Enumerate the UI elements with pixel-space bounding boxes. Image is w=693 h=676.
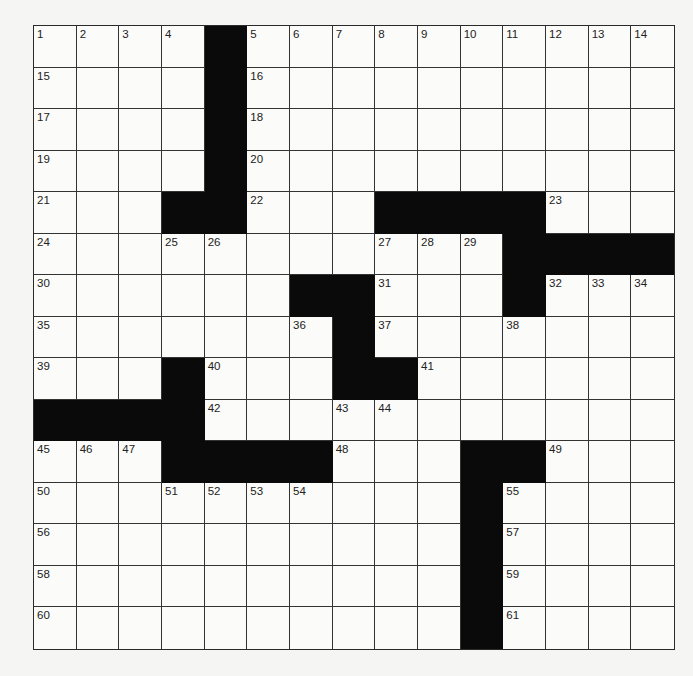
grid-cell[interactable] — [418, 317, 461, 359]
grid-cell[interactable] — [333, 483, 376, 525]
grid-cell[interactable]: 61 — [503, 607, 546, 649]
grid-cell[interactable] — [631, 524, 674, 566]
grid-cell[interactable] — [162, 109, 205, 151]
grid-cell[interactable]: 12 — [546, 26, 589, 68]
grid-cell[interactable] — [333, 109, 376, 151]
grid-cell[interactable] — [589, 317, 632, 359]
grid-cell[interactable] — [461, 275, 504, 317]
grid-cell[interactable] — [205, 317, 248, 359]
grid-cell[interactable] — [119, 68, 162, 110]
grid-cell[interactable] — [418, 566, 461, 608]
grid-cell[interactable] — [290, 109, 333, 151]
grid-cell[interactable] — [77, 607, 120, 649]
grid-cell[interactable]: 20 — [247, 151, 290, 193]
grid-cell[interactable]: 28 — [418, 234, 461, 276]
grid-cell[interactable]: 22 — [247, 192, 290, 234]
grid-cell[interactable] — [375, 483, 418, 525]
grid-cell[interactable] — [589, 483, 632, 525]
grid-cell[interactable] — [290, 358, 333, 400]
grid-cell[interactable]: 30 — [34, 275, 77, 317]
grid-cell[interactable] — [461, 109, 504, 151]
grid-cell[interactable] — [290, 192, 333, 234]
grid-cell[interactable] — [77, 151, 120, 193]
grid-cell[interactable] — [589, 441, 632, 483]
grid-cell[interactable] — [418, 607, 461, 649]
grid-cell[interactable]: 56 — [34, 524, 77, 566]
grid-cell[interactable]: 43 — [333, 400, 376, 442]
grid-cell[interactable] — [503, 68, 546, 110]
grid-cell[interactable]: 29 — [461, 234, 504, 276]
grid-cell[interactable] — [461, 400, 504, 442]
grid-cell[interactable] — [205, 566, 248, 608]
grid-cell[interactable] — [333, 524, 376, 566]
grid-cell[interactable]: 53 — [247, 483, 290, 525]
grid-cell[interactable] — [333, 566, 376, 608]
grid-cell[interactable] — [418, 524, 461, 566]
grid-cell[interactable] — [290, 151, 333, 193]
grid-cell[interactable] — [290, 607, 333, 649]
grid-cell[interactable]: 4 — [162, 26, 205, 68]
grid-cell[interactable]: 16 — [247, 68, 290, 110]
grid-cell[interactable] — [77, 234, 120, 276]
grid-cell[interactable] — [589, 400, 632, 442]
grid-cell[interactable] — [375, 607, 418, 649]
grid-cell[interactable] — [589, 151, 632, 193]
grid-cell[interactable]: 58 — [34, 566, 77, 608]
grid-cell[interactable] — [290, 566, 333, 608]
grid-cell[interactable] — [247, 400, 290, 442]
grid-cell[interactable]: 2 — [77, 26, 120, 68]
grid-cell[interactable]: 26 — [205, 234, 248, 276]
grid-cell[interactable] — [461, 317, 504, 359]
grid-cell[interactable] — [589, 192, 632, 234]
grid-cell[interactable] — [375, 109, 418, 151]
grid-cell[interactable] — [77, 192, 120, 234]
grid-cell[interactable]: 10 — [461, 26, 504, 68]
grid-cell[interactable] — [119, 566, 162, 608]
grid-cell[interactable] — [77, 566, 120, 608]
grid-cell[interactable] — [77, 358, 120, 400]
grid-cell[interactable]: 14 — [631, 26, 674, 68]
grid-cell[interactable]: 31 — [375, 275, 418, 317]
grid-cell[interactable] — [119, 234, 162, 276]
grid-cell[interactable] — [461, 151, 504, 193]
grid-cell[interactable] — [333, 151, 376, 193]
grid-cell[interactable]: 17 — [34, 109, 77, 151]
grid-cell[interactable]: 60 — [34, 607, 77, 649]
grid-cell[interactable] — [333, 68, 376, 110]
grid-cell[interactable]: 6 — [290, 26, 333, 68]
grid-cell[interactable] — [375, 68, 418, 110]
grid-cell[interactable]: 27 — [375, 234, 418, 276]
grid-cell[interactable] — [503, 109, 546, 151]
grid-cell[interactable] — [631, 68, 674, 110]
grid-cell[interactable] — [503, 151, 546, 193]
grid-cell[interactable]: 3 — [119, 26, 162, 68]
grid-cell[interactable] — [77, 483, 120, 525]
grid-cell[interactable]: 35 — [34, 317, 77, 359]
grid-cell[interactable]: 57 — [503, 524, 546, 566]
grid-cell[interactable] — [589, 524, 632, 566]
grid-cell[interactable] — [247, 358, 290, 400]
grid-cell[interactable] — [546, 109, 589, 151]
grid-cell[interactable] — [290, 68, 333, 110]
grid-cell[interactable] — [375, 524, 418, 566]
grid-cell[interactable] — [205, 524, 248, 566]
grid-cell[interactable] — [589, 607, 632, 649]
grid-cell[interactable] — [119, 483, 162, 525]
grid-cell[interactable] — [631, 566, 674, 608]
grid-cell[interactable] — [418, 68, 461, 110]
grid-cell[interactable]: 42 — [205, 400, 248, 442]
grid-cell[interactable]: 50 — [34, 483, 77, 525]
grid-cell[interactable]: 36 — [290, 317, 333, 359]
grid-cell[interactable]: 52 — [205, 483, 248, 525]
grid-cell[interactable]: 9 — [418, 26, 461, 68]
grid-cell[interactable] — [162, 275, 205, 317]
grid-cell[interactable] — [162, 524, 205, 566]
grid-cell[interactable] — [375, 441, 418, 483]
grid-cell[interactable] — [418, 151, 461, 193]
grid-cell[interactable] — [418, 275, 461, 317]
grid-cell[interactable] — [119, 192, 162, 234]
grid-cell[interactable] — [546, 524, 589, 566]
grid-cell[interactable]: 13 — [589, 26, 632, 68]
grid-cell[interactable] — [418, 483, 461, 525]
grid-cell[interactable] — [247, 566, 290, 608]
